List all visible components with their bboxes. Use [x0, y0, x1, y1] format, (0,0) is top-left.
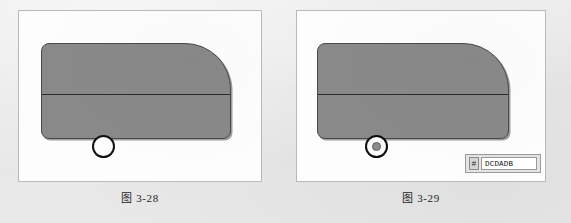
- figure-3-28-caption: 图 3-28: [18, 189, 262, 205]
- tag-input-field[interactable]: DCDADB: [481, 157, 537, 170]
- snap-point-center-dot: [372, 142, 381, 151]
- snap-point-marker-icon: [365, 135, 388, 158]
- figure-3-29-caption: 图 3-29: [296, 189, 546, 205]
- body-outline-shape: [317, 43, 509, 139]
- wheel-circle-icon: [92, 135, 115, 158]
- hash-icon[interactable]: #: [469, 157, 479, 170]
- figure-3-29-canvas: # DCDADB: [296, 10, 546, 182]
- figure-3-28-canvas: [18, 10, 262, 182]
- scanned-page: 图 3-28 # DCDADB 图 3-29: [0, 0, 571, 223]
- horizontal-divider-line: [318, 94, 508, 95]
- figure-3-29: # DCDADB 图 3-29: [296, 10, 546, 205]
- tag-input-widget[interactable]: # DCDADB: [465, 154, 541, 173]
- figure-3-28: 图 3-28: [18, 10, 262, 205]
- body-outline-shape: [41, 43, 231, 139]
- horizontal-divider-line: [42, 94, 230, 95]
